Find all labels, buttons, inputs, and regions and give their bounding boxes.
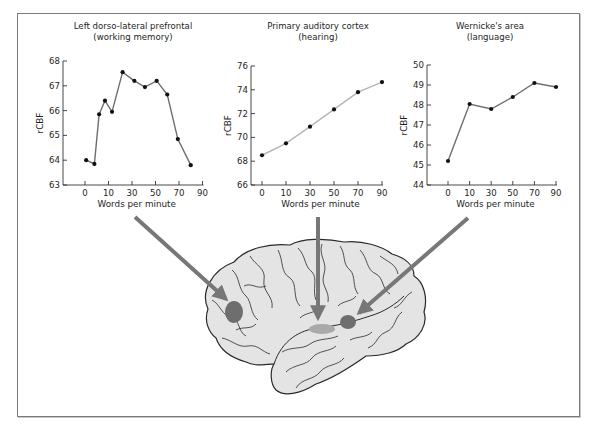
data-point xyxy=(489,107,493,111)
data-point xyxy=(446,159,450,163)
data-point xyxy=(284,141,288,145)
data-point xyxy=(511,95,515,99)
data-point xyxy=(84,158,88,162)
arrow-to-prefrontal xyxy=(135,217,226,299)
data-point xyxy=(468,102,472,106)
data-point xyxy=(92,162,96,166)
x-tick-label: 90 xyxy=(551,188,562,198)
y-tick-label: 50 xyxy=(413,60,424,70)
x-tick-label: 30 xyxy=(305,188,316,198)
y-axis-label: rCBF xyxy=(223,115,233,136)
data-point xyxy=(143,85,147,89)
data-point xyxy=(155,79,159,83)
x-tick-label: 70 xyxy=(353,188,364,198)
data-line xyxy=(262,82,382,155)
y-tick-label: 63 xyxy=(49,180,60,190)
data-point xyxy=(165,92,169,96)
x-axis-label: Words per minute xyxy=(98,199,176,209)
brain-illustration xyxy=(206,239,426,394)
data-point xyxy=(532,81,536,85)
data-point xyxy=(260,153,264,157)
x-tick-label: 90 xyxy=(197,188,208,198)
prefrontal-activation-spot xyxy=(225,301,243,323)
data-point xyxy=(103,99,107,103)
chart-title: Wernicke's area xyxy=(456,21,524,31)
x-tick-label: 10 xyxy=(464,188,475,198)
x-tick-label: 50 xyxy=(150,188,161,198)
y-tick-label: 66 xyxy=(237,180,248,190)
data-point xyxy=(189,163,193,167)
chart-subtitle: (language) xyxy=(467,32,514,42)
data-point xyxy=(332,107,336,111)
y-tick-label: 70 xyxy=(237,132,248,142)
x-tick-label: 30 xyxy=(486,188,497,198)
data-point xyxy=(380,80,384,84)
data-point xyxy=(176,137,180,141)
x-tick-label: 70 xyxy=(529,188,540,198)
x-tick-label: 50 xyxy=(329,188,340,198)
data-point xyxy=(132,79,136,83)
y-axis-label: rCBF xyxy=(399,115,409,136)
chart-subtitle: (hearing) xyxy=(298,32,338,42)
y-tick-label: 64 xyxy=(49,155,60,165)
chart-title: Primary auditory cortex xyxy=(267,21,369,31)
x-tick-label: 90 xyxy=(377,188,388,198)
chart-wernicke: Wernicke's area (language) 4445464748495… xyxy=(399,21,561,209)
x-tick-label: 0 xyxy=(445,188,450,198)
y-tick-label: 45 xyxy=(413,160,424,170)
y-tick-label: 46 xyxy=(413,140,424,150)
data-line xyxy=(86,72,191,165)
y-tick-label: 66 xyxy=(49,106,60,116)
x-tick-label: 0 xyxy=(259,188,264,198)
wernicke-activation-spot xyxy=(340,315,356,329)
data-point xyxy=(554,85,558,89)
data-line xyxy=(448,83,556,161)
auditory-activation-spot xyxy=(309,324,335,334)
chart-prefrontal: Left dorso-lateral prefrontal (working m… xyxy=(35,21,208,209)
y-tick-label: 68 xyxy=(49,56,60,66)
y-tick-label: 76 xyxy=(237,61,248,71)
x-axis-label: Words per minute xyxy=(281,199,359,209)
y-tick-label: 47 xyxy=(413,120,424,130)
x-axis-label: Words per minute xyxy=(456,199,534,209)
y-tick-label: 68 xyxy=(237,156,248,166)
y-tick-label: 74 xyxy=(237,85,248,95)
x-tick-label: 0 xyxy=(82,188,87,198)
data-point xyxy=(110,110,114,114)
data-point xyxy=(356,90,360,94)
y-tick-label: 65 xyxy=(49,130,60,140)
data-point xyxy=(97,112,101,116)
x-tick-label: 70 xyxy=(174,188,185,198)
chart-subtitle: (working memory) xyxy=(93,32,172,42)
y-tick-label: 72 xyxy=(237,109,248,119)
y-tick-label: 49 xyxy=(413,80,424,90)
y-tick-label: 67 xyxy=(49,81,60,91)
x-tick-label: 10 xyxy=(103,188,114,198)
x-tick-label: 30 xyxy=(127,188,138,198)
data-point xyxy=(308,125,312,129)
x-tick-label: 50 xyxy=(507,188,518,198)
x-tick-label: 10 xyxy=(281,188,292,198)
y-tick-label: 44 xyxy=(413,180,424,190)
y-axis-label: rCBF xyxy=(35,113,45,134)
figure-canvas: Left dorso-lateral prefrontal (working m… xyxy=(0,0,596,430)
chart-title: Left dorso-lateral prefrontal xyxy=(74,21,193,31)
data-point xyxy=(121,70,125,74)
y-tick-label: 48 xyxy=(413,100,424,110)
chart-auditory: Primary auditory cortex (hearing) 666870… xyxy=(223,21,387,209)
